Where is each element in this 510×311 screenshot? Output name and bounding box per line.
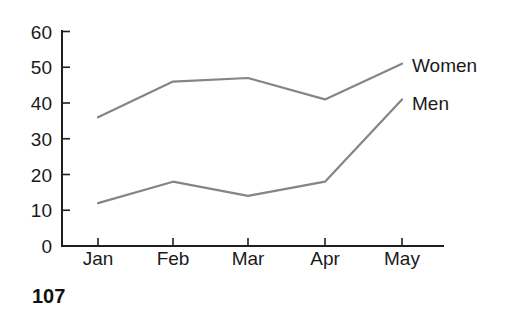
y-axis-ticks bbox=[62, 32, 70, 247]
women-line bbox=[98, 64, 402, 118]
x-tick-label: Jan bbox=[83, 248, 114, 269]
y-axis-labels: 0102030405060 bbox=[31, 22, 52, 258]
series-label-women: Women bbox=[412, 55, 477, 76]
y-tick-label: 30 bbox=[31, 129, 52, 150]
x-tick-label: May bbox=[384, 248, 420, 269]
x-tick-label: Mar bbox=[232, 248, 265, 269]
x-tick-label: Feb bbox=[157, 248, 190, 269]
x-axis-ticks bbox=[98, 238, 402, 245]
axes bbox=[62, 30, 444, 246]
data-lines bbox=[98, 64, 402, 203]
y-tick-label: 10 bbox=[31, 200, 52, 221]
figure-number: 107 bbox=[32, 285, 65, 308]
y-tick-label: 20 bbox=[31, 165, 52, 186]
chart: 0102030405060 JanFebMarAprMay Women Men … bbox=[0, 0, 510, 311]
y-tick-label: 0 bbox=[41, 236, 52, 257]
men-line bbox=[98, 99, 402, 203]
y-tick-label: 60 bbox=[31, 22, 52, 43]
line-chart-canvas: 0102030405060 JanFebMarAprMay Women Men bbox=[0, 0, 510, 311]
x-tick-label: Apr bbox=[310, 248, 340, 269]
y-tick-label: 50 bbox=[31, 57, 52, 78]
series-label-men: Men bbox=[412, 93, 449, 114]
y-tick-label: 40 bbox=[31, 93, 52, 114]
x-axis-labels: JanFebMarAprMay bbox=[83, 248, 421, 269]
